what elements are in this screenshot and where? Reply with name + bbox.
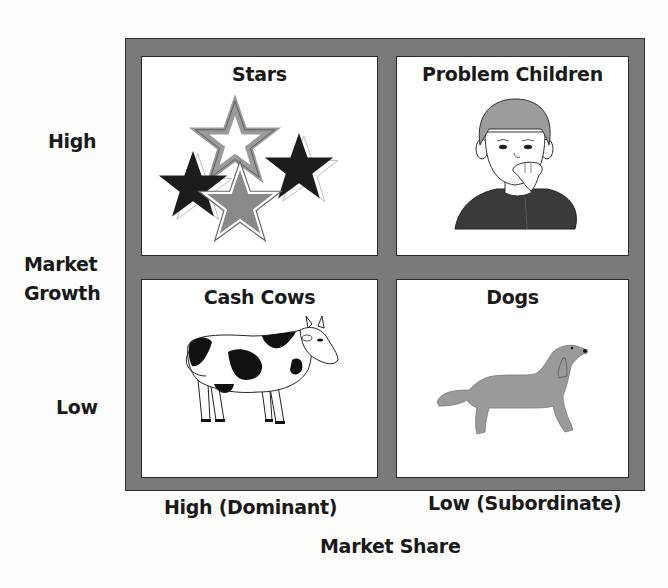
child-icon [397,57,630,257]
quadrant-cash-cows: Cash Cows [141,279,378,478]
x-axis-title: Market Share [320,535,461,557]
quadrant-dogs: Dogs [396,279,629,478]
y-axis-title-line1: Market [24,250,100,279]
y-axis-title-line2: Growth [24,279,100,308]
stars-icon [142,57,379,257]
y-axis-low-label: Low [56,396,98,418]
y-axis-high-label: High [48,130,96,152]
dog-icon [397,280,630,479]
quadrant-problem-children: Problem Children [396,56,629,256]
x-axis-high-label: High (Dominant) [164,496,337,518]
quadrant-stars: Stars [141,56,378,256]
y-axis-title: Market Growth [24,250,100,308]
matrix-frame: Stars [125,38,645,491]
cow-icon [142,280,379,479]
x-axis-low-label: Low (Subordinate) [428,492,621,514]
